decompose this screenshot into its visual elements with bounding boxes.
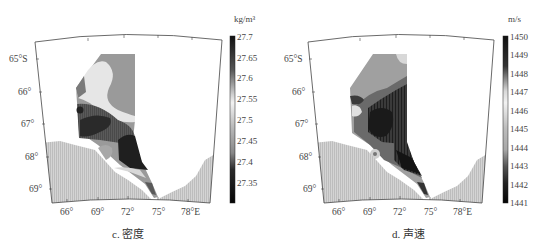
lon-label: 69° bbox=[91, 207, 104, 217]
lon-label: 72° bbox=[121, 207, 134, 217]
colorbar-tick: 1442 bbox=[510, 180, 528, 190]
lat-label: 65°S bbox=[284, 54, 303, 64]
lon-label: 66° bbox=[60, 207, 73, 217]
colorbar-tick: 27.35 bbox=[237, 178, 257, 188]
lon-label: 75° bbox=[424, 207, 437, 217]
sound-speed-map bbox=[272, 0, 544, 251]
colorbar-tick: 27.6 bbox=[237, 73, 253, 83]
lat-label: 67° bbox=[295, 119, 308, 129]
colorbar-tick: 27.55 bbox=[237, 94, 257, 104]
colorbar-tick: 27.5 bbox=[237, 115, 253, 125]
lat-label: 66° bbox=[292, 87, 305, 97]
colorbar-tick: 27.4 bbox=[237, 157, 253, 167]
colorbar-tick: 1446 bbox=[510, 106, 528, 116]
colorbar-tick: 1449 bbox=[510, 50, 528, 60]
lon-label: 66° bbox=[332, 207, 345, 217]
colorbar-unit: kg/m³ bbox=[234, 14, 255, 24]
colorbar-tick: 27.45 bbox=[237, 136, 257, 146]
lat-label: 66° bbox=[18, 87, 31, 97]
colorbar-tick: 1443 bbox=[510, 161, 528, 171]
lat-label: 68° bbox=[299, 152, 312, 162]
colorbar-tick: 27.7 bbox=[237, 32, 253, 42]
lat-label: 69° bbox=[29, 184, 42, 194]
colorbar-tick: 1447 bbox=[510, 87, 528, 97]
panel-sound-speed: m/s 1450 1449 1448 1447 1446 1445 1444 1… bbox=[272, 0, 544, 251]
lon-label: 78°E bbox=[453, 207, 472, 217]
colorbar-tick: 27.65 bbox=[237, 53, 257, 63]
lat-label: 68° bbox=[25, 152, 38, 162]
colorbar-tick: 1444 bbox=[510, 143, 528, 153]
colorbar-unit: m/s bbox=[508, 14, 521, 24]
lat-label: 67° bbox=[21, 119, 34, 129]
lat-label: 69° bbox=[303, 184, 316, 194]
lon-label: 78°E bbox=[181, 207, 200, 217]
density-map bbox=[0, 0, 272, 251]
colorbar-tick: 1450 bbox=[510, 32, 528, 42]
panel-caption: c. 密度 bbox=[112, 225, 144, 241]
density-colorbar bbox=[230, 36, 235, 203]
colorbar-tick: 1445 bbox=[510, 124, 528, 134]
colorbar-tick: 1448 bbox=[510, 69, 528, 79]
colorbar-tick: 1441 bbox=[510, 198, 528, 208]
panel-caption: d. 声速 bbox=[392, 225, 425, 241]
lat-label: 65°S bbox=[9, 54, 28, 64]
lon-label: 72° bbox=[393, 207, 406, 217]
panel-density: kg/m³ 27.7 27.65 27.6 27.55 27.5 27.45 2… bbox=[0, 0, 272, 251]
lon-label: 75° bbox=[152, 207, 165, 217]
sound-speed-colorbar bbox=[503, 36, 508, 203]
lon-label: 69° bbox=[363, 207, 376, 217]
